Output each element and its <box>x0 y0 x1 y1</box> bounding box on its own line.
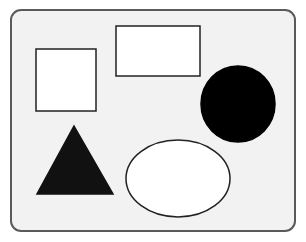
black-circle-shape <box>201 66 275 142</box>
white-square-shape <box>36 49 96 111</box>
shapes-diagram <box>0 0 306 242</box>
diagram-svg <box>0 0 306 242</box>
white-ellipse-shape <box>126 140 230 217</box>
white-rectangle-shape <box>116 26 200 76</box>
